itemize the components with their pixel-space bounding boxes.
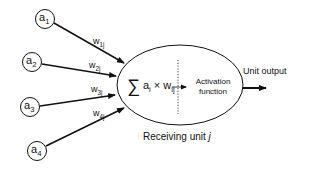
- weight-label-w2j: w2j: [89, 60, 100, 72]
- receiving-unit-label: Receiving unit j: [143, 131, 211, 142]
- activation-function-label: Activation function: [192, 77, 234, 97]
- weight-label-w3j: w3j: [91, 84, 102, 96]
- connection-a3: [40, 95, 115, 106]
- connection-a1: [54, 23, 124, 63]
- connection-a4: [46, 108, 124, 146]
- weight-label-w4j: w4j: [93, 108, 104, 120]
- unit-output-label: Unit output: [243, 66, 287, 76]
- summation-formula: ∑ ai × wij: [127, 76, 175, 97]
- weight-label-w1j: w1j: [93, 36, 104, 48]
- sigma-symbol: ∑: [127, 76, 140, 96]
- input-label-a2: a2: [26, 54, 36, 69]
- connection-a2: [42, 64, 116, 76]
- input-label-a1: a1: [39, 11, 49, 26]
- input-label-a4: a4: [31, 143, 41, 158]
- input-label-a3: a3: [24, 99, 34, 114]
